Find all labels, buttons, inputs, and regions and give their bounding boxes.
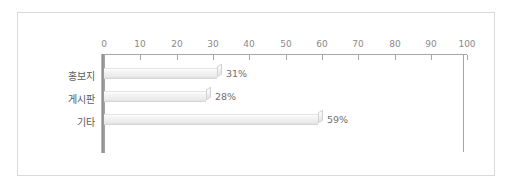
tick-mark-20 (177, 55, 178, 60)
tick-label-60: 60 (309, 39, 335, 49)
tick-mark-0 (104, 55, 105, 60)
data-label: 28% (215, 91, 236, 102)
category-axis: 홍보지 게시판 기타 (33, 54, 95, 154)
tick-mark-80 (395, 55, 396, 60)
tick-mark-40 (249, 55, 250, 60)
category-label-0: 홍보지 (35, 71, 95, 83)
tick-mark-50 (286, 55, 287, 60)
tick-mark-70 (358, 55, 359, 60)
data-label: 31% (226, 68, 247, 79)
tick-label-80: 80 (382, 39, 408, 49)
bar-end-cap-icon (217, 64, 222, 78)
tick-mark-30 (213, 55, 214, 60)
chart-frame: 홍보지 게시판 기타 0 10 20 30 40 50 60 70 80 90 … (17, 12, 495, 176)
tick-label-50: 50 (273, 39, 299, 49)
tick-mark-10 (140, 55, 141, 60)
category-label-2: 기타 (35, 117, 95, 129)
bar-28[interactable] (104, 91, 206, 102)
tick-label-10: 10 (127, 39, 153, 49)
tick-label-40: 40 (236, 39, 262, 49)
data-label: 59% (327, 114, 348, 125)
tick-label-70: 70 (345, 39, 371, 49)
tick-label-20: 20 (164, 39, 190, 49)
category-label-1: 게시판 (35, 94, 95, 106)
bar-end-cap-icon (206, 87, 211, 101)
bar-end-cap-icon (318, 110, 323, 124)
tick-label-90: 90 (418, 39, 444, 49)
tick-mark-90 (431, 55, 432, 60)
plot-area: 0 10 20 30 40 50 60 70 80 90 100 31% 28%… (104, 54, 467, 154)
tick-mark-100 (467, 55, 468, 60)
bar-31[interactable] (104, 68, 217, 79)
tick-label-100: 100 (454, 39, 480, 49)
tick-label-30: 30 (200, 39, 226, 49)
bar-59[interactable] (104, 114, 318, 125)
tick-label-0: 0 (91, 39, 117, 49)
tick-mark-60 (322, 55, 323, 60)
